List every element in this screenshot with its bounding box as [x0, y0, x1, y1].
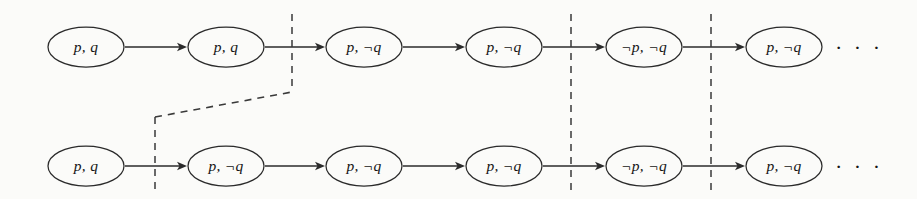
state-node-label: p, ¬q	[345, 38, 381, 55]
state-node[interactable]: ¬p, ¬q	[606, 27, 682, 67]
state-node[interactable]: p, ¬q	[466, 27, 542, 67]
state-node[interactable]: p, ¬q	[746, 27, 822, 67]
state-node[interactable]: p, q	[188, 27, 264, 67]
transition-arrow	[265, 43, 325, 51]
figure-canvas: p, qp, qp, ¬qp, ¬q¬p, ¬qp, ¬qp, qp, ¬qp,…	[0, 0, 917, 199]
state-node-label: p, ¬q	[485, 157, 521, 174]
state-node[interactable]: ¬p, ¬q	[606, 146, 682, 186]
state-node[interactable]: p, ¬q	[466, 146, 542, 186]
transition-arrow	[543, 162, 605, 170]
transition-arrow	[683, 43, 745, 51]
diagram-svg: p, qp, qp, ¬qp, ¬q¬p, ¬qp, ¬qp, qp, ¬qp,…	[0, 0, 917, 199]
transition-arrow	[125, 162, 187, 170]
state-node-label: p, ¬q	[485, 38, 521, 55]
state-node-label: ¬p, ¬q	[621, 38, 667, 55]
state-node-label: p, q	[73, 157, 98, 174]
state-node-label: p, q	[213, 38, 238, 55]
state-node-label: p, ¬q	[207, 157, 243, 174]
transition-arrow	[265, 162, 325, 170]
state-node-label: p, ¬q	[765, 157, 801, 174]
state-node-label: ¬p, ¬q	[621, 157, 667, 174]
state-node[interactable]: p, ¬q	[188, 146, 264, 186]
state-node-label: p, q	[73, 38, 98, 55]
edges-layer	[125, 43, 745, 170]
state-node-label: p, ¬q	[765, 38, 801, 55]
state-node[interactable]: p, ¬q	[326, 27, 402, 67]
continuation-ellipsis: · · ·	[835, 154, 883, 179]
state-node[interactable]: p, ¬q	[326, 146, 402, 186]
transition-arrow	[403, 43, 465, 51]
state-node[interactable]: p, ¬q	[746, 146, 822, 186]
state-node[interactable]: p, q	[48, 146, 124, 186]
ellipsis-layer: · · ·· · ·	[835, 35, 883, 179]
transition-arrow	[543, 43, 605, 51]
state-node[interactable]: p, q	[48, 27, 124, 67]
transition-arrow	[125, 43, 187, 51]
transition-arrow	[403, 162, 465, 170]
row-link-line	[155, 92, 292, 117]
transition-arrow	[683, 162, 745, 170]
nodes-layer: p, qp, qp, ¬qp, ¬q¬p, ¬qp, ¬qp, qp, ¬qp,…	[48, 27, 822, 186]
state-node-label: p, ¬q	[345, 157, 381, 174]
continuation-ellipsis: · · ·	[835, 35, 883, 60]
